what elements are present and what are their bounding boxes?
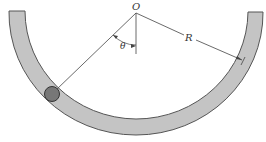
origin-label: O <box>132 1 140 12</box>
radius-dimension-line <box>136 13 184 35</box>
ball <box>45 87 60 102</box>
angle-label: θ <box>120 41 126 51</box>
radius-line-to-ball <box>56 13 136 90</box>
pendulum-track-diagram: O θ R <box>0 0 266 142</box>
radius-label: R <box>184 32 193 43</box>
radius-dimension-line-2 <box>196 40 242 60</box>
